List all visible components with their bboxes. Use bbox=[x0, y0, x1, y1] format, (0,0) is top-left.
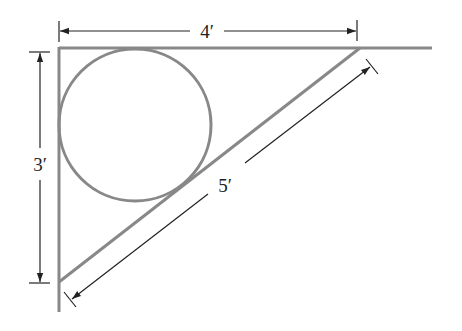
diagram-canvas: 4′ 3′ 5′ bbox=[0, 0, 462, 331]
hypotenuse-edge bbox=[59, 48, 360, 282]
inscribed-circle bbox=[59, 49, 211, 201]
label-left: 3′ bbox=[33, 154, 47, 175]
label-top: 4′ bbox=[200, 21, 214, 42]
triangle-diagram: 4′ 3′ 5′ bbox=[0, 0, 462, 331]
triangle-shape bbox=[59, 47, 432, 312]
label-hypotenuse: 5′ bbox=[218, 175, 232, 196]
